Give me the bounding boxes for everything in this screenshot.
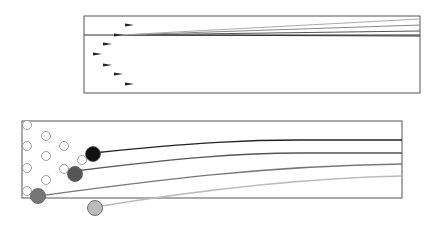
empty-circle (23, 164, 32, 173)
arrow-icon (93, 53, 102, 56)
empty-circle (42, 176, 51, 185)
empty-circle (78, 156, 87, 165)
empty-circle (60, 142, 69, 151)
arrow-icon (125, 24, 134, 27)
arrow-icon (103, 43, 112, 46)
filled-circle (88, 201, 103, 216)
trajectory-curve-0 (93, 140, 402, 153)
arrow-icon (125, 83, 134, 86)
filled-circle (31, 189, 46, 204)
empty-circle (42, 152, 51, 161)
diagram-canvas (0, 0, 440, 230)
empty-circle (23, 187, 32, 196)
arrow-icon (103, 64, 112, 67)
empty-circle (42, 132, 51, 141)
trajectory-curve-1 (75, 153, 402, 171)
empty-circle (60, 165, 69, 174)
empty-circle (23, 121, 32, 130)
filled-circle (86, 147, 101, 162)
arrow-icon (114, 34, 123, 37)
trajectory-curve-3 (95, 176, 402, 207)
arrow-icon (114, 73, 123, 76)
empty-circle (23, 142, 32, 151)
filled-circle (68, 167, 83, 182)
